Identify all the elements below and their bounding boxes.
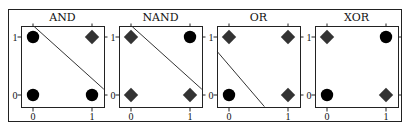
diamond-point-icon (379, 88, 393, 102)
panel-nand: NAND 0 1 0 1 (111, 11, 206, 122)
x-tick-label-1: 1 (384, 111, 389, 122)
panel-xor: XOR 0 1 0 1 (307, 11, 402, 122)
data-points (27, 30, 99, 101)
y-tick-label-1: 1 (307, 32, 312, 43)
y-tick-label-0: 0 (209, 90, 214, 101)
panel-title: OR (250, 11, 268, 24)
data-points (222, 30, 295, 102)
boolean-functions-figure: AND 0 1 0 1 NAND 0 1 0 1 OR 0 (0, 0, 410, 132)
diamond-point-icon (222, 30, 236, 44)
x-tick-label-1: 1 (188, 111, 193, 122)
diamond-point-icon (320, 30, 334, 44)
x-tick-label-0: 0 (227, 111, 232, 122)
x-tick-label-1: 1 (90, 111, 95, 122)
panel-and: AND 0 1 0 1 (13, 11, 108, 122)
y-tick-label-0: 0 (13, 90, 18, 101)
diamond-point-icon (281, 30, 295, 44)
panel-title: XOR (344, 11, 370, 24)
panel-title: NAND (142, 11, 178, 24)
diamond-point-icon (281, 88, 295, 102)
figure-canvas: AND 0 1 0 1 NAND 0 1 0 1 OR 0 (0, 0, 410, 132)
circle-point-icon (27, 31, 39, 43)
panel-or: OR 0 1 0 1 (209, 11, 304, 122)
circle-point-icon (86, 89, 98, 101)
circle-point-icon (27, 89, 39, 101)
circle-point-icon (380, 31, 392, 43)
x-tick-label-0: 0 (325, 111, 330, 122)
y-tick-label-1: 1 (209, 32, 214, 43)
x-tick-label-0: 0 (129, 111, 134, 122)
diamond-point-icon (85, 30, 99, 44)
diamond-point-icon (124, 30, 138, 44)
data-points (320, 30, 393, 102)
circle-point-icon (321, 89, 333, 101)
y-tick-label-0: 0 (307, 90, 312, 101)
panel-title: AND (48, 11, 76, 24)
circle-point-icon (184, 31, 196, 43)
diamond-point-icon (183, 88, 197, 102)
circle-point-icon (223, 89, 235, 101)
y-tick-label-1: 1 (111, 32, 116, 43)
data-points (124, 30, 197, 102)
y-tick-label-1: 1 (13, 32, 18, 43)
diamond-point-icon (124, 88, 138, 102)
x-tick-label-0: 0 (31, 111, 36, 122)
x-tick-label-1: 1 (286, 111, 291, 122)
y-tick-label-0: 0 (111, 90, 116, 101)
